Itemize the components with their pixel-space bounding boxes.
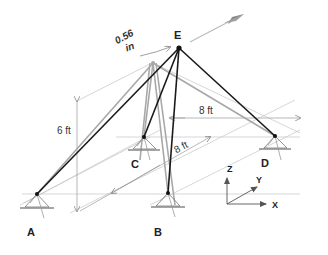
label-D: D: [261, 157, 269, 169]
width-dimension-label: 8 ft: [199, 105, 213, 116]
coordinate-axes: Z Y X: [227, 164, 278, 210]
original-apex-node: [151, 61, 155, 65]
displacement-indicator: 0.56 in: [113, 27, 170, 56]
node-E: [176, 45, 181, 50]
y-axis-label: Y: [256, 175, 262, 185]
supports: [20, 136, 291, 218]
member-EA: [37, 48, 179, 194]
members: [37, 48, 275, 194]
x-axis-label: X: [272, 200, 278, 210]
height-dimension-label: 6 ft: [57, 125, 71, 136]
depth-dimension-label: 8 ft: [172, 139, 190, 155]
support-A: [20, 194, 54, 218]
y-axis-arrow: [227, 187, 257, 204]
label-E: E: [174, 29, 181, 41]
original-members: [37, 63, 275, 205]
node-B: [166, 191, 170, 195]
truss-diagram: 6 ft 8 ft 8 ft 0.56 in: [0, 0, 328, 255]
load-arrow: [190, 14, 244, 42]
displacement-unit: in: [124, 40, 136, 53]
label-B: B: [154, 226, 162, 238]
label-C: C: [131, 158, 139, 170]
node-A: [35, 192, 39, 196]
z-axis-label: Z: [227, 164, 233, 174]
node-C: [142, 135, 146, 139]
depth-dimension: 8 ft: [80, 137, 210, 211]
node-D: [273, 134, 277, 138]
construction-lines: [20, 63, 300, 213]
support-B: [151, 193, 185, 217]
label-A: A: [27, 226, 35, 238]
member-ED: [179, 48, 275, 136]
diagram-canvas: 6 ft 8 ft 8 ft 0.56 in: [0, 0, 328, 255]
